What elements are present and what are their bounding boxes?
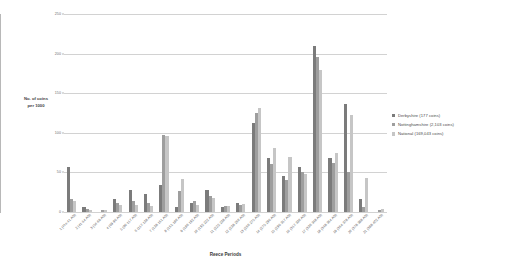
bar-group	[233, 14, 248, 212]
plot-area: 050100150200250	[64, 14, 387, 212]
bar-group	[79, 14, 94, 212]
bar	[73, 201, 76, 212]
coin-distribution-bar-chart: No. of coins per 1000 050100150200250 1 …	[0, 0, 509, 269]
y-tick-label: 100	[55, 131, 61, 135]
x-axis-title: Reece Periods	[64, 252, 387, 257]
legend-item-label: National (169,043 coins)	[398, 131, 444, 136]
bar	[227, 206, 230, 212]
bar-group	[341, 14, 356, 212]
bar-group	[218, 14, 233, 212]
bar	[104, 210, 107, 212]
bar-group	[202, 14, 217, 212]
legend-item[interactable]: Derbyshire (177 coins)	[392, 113, 504, 118]
legend-swatch-icon	[392, 132, 395, 135]
y-tick-label: 250	[55, 12, 61, 16]
chart-legend: Derbyshire (177 coins)Nottinghamshire (2…	[392, 113, 504, 141]
bar-group	[126, 14, 141, 212]
bar-group	[310, 14, 325, 212]
legend-item[interactable]: Nottinghamshire (2,103 coins)	[392, 122, 504, 127]
bar-group	[356, 14, 371, 212]
y-tick-label: 0	[59, 210, 61, 214]
bar-group	[64, 14, 79, 212]
bar	[304, 174, 307, 212]
bar-group	[264, 14, 279, 212]
bar-groups	[64, 14, 387, 212]
bar	[288, 157, 291, 212]
bar	[335, 153, 338, 212]
bar-group	[295, 14, 310, 212]
x-tick-label: 3 (54-69 AD)	[90, 213, 107, 230]
bar-group	[95, 14, 110, 212]
bar	[135, 205, 138, 212]
bar-group	[141, 14, 156, 212]
bar-group	[156, 14, 171, 212]
y-tick-label: 200	[55, 52, 61, 56]
legend-swatch-icon	[392, 123, 395, 126]
legend-swatch-icon	[392, 114, 395, 117]
bar	[242, 204, 245, 212]
y-axis-title-line2: per 1000	[10, 103, 62, 110]
legend-item-label: Nottinghamshire (2,103 coins)	[398, 122, 454, 127]
bar-group	[110, 14, 125, 212]
bar-group	[249, 14, 264, 212]
bar	[119, 205, 122, 212]
bar	[258, 108, 261, 212]
bar	[150, 206, 153, 212]
legend-item-label: Derbyshire (177 coins)	[398, 113, 440, 118]
x-tick-label: 1 (Pre 41 AD)	[58, 213, 76, 231]
bar	[165, 136, 168, 212]
bar-group	[325, 14, 340, 212]
y-tick-label: 150	[55, 91, 61, 95]
bar-group	[187, 14, 202, 212]
y-tick-label: 50	[57, 170, 61, 174]
bar	[273, 148, 276, 212]
bar	[196, 205, 199, 212]
y-axis-title: No. of coins per 1000	[10, 96, 62, 109]
bar	[89, 210, 92, 212]
bar	[181, 179, 184, 212]
y-axis-line	[0, 14, 1, 213]
bar	[381, 209, 384, 212]
bar	[212, 198, 215, 212]
legend-item[interactable]: National (169,043 coins)	[392, 131, 504, 136]
bar-group	[279, 14, 294, 212]
bar	[350, 115, 353, 212]
bar-group	[372, 14, 387, 212]
bar	[365, 178, 368, 212]
bar-group	[172, 14, 187, 212]
bar	[319, 70, 322, 212]
